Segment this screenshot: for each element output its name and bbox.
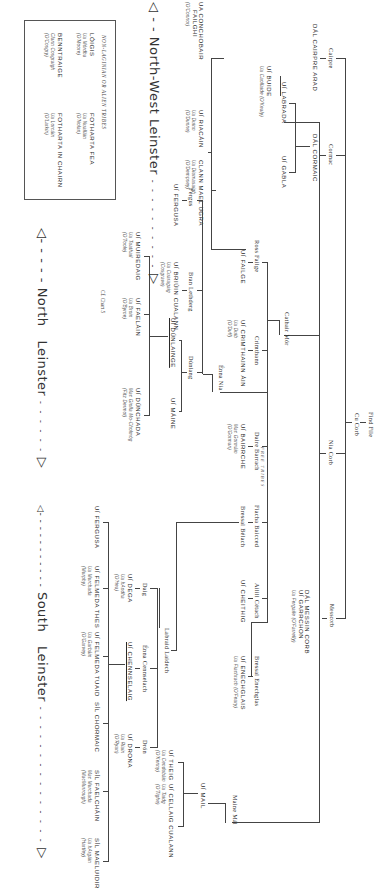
chart-reference: Cf. Chart 5 xyxy=(100,290,106,313)
box-title: NON-LAGINIAN OR ALIEN TRIBES xyxy=(101,35,107,129)
connector xyxy=(203,374,213,375)
node-sil-faelchain: SÍL FAELCHÁIN Mac Murchada (MacMurrough) xyxy=(80,770,100,822)
node-ui-riacain: UÍ RIACÁIN Ua Duinn (O'Dunne) xyxy=(184,110,204,148)
connector xyxy=(103,723,109,724)
connector xyxy=(320,453,326,454)
connector xyxy=(262,262,268,263)
node-sil-maeluidir: SÍL MAELUIDIR Ua hArgáin (Hartley) xyxy=(80,838,100,889)
node-ui-gabla: UÍ GABLA xyxy=(281,156,287,188)
connector xyxy=(208,803,226,804)
connector xyxy=(322,618,327,619)
connector xyxy=(289,172,296,173)
connector xyxy=(232,822,320,823)
connector xyxy=(150,336,168,337)
node-ui-cheithig: UÍ CHEITHIG xyxy=(240,580,246,623)
node-sil-chormaic: SÍL CHORMAIC xyxy=(94,702,100,752)
node-ui-dunlainge: UÍ DÚNLAINGE xyxy=(170,318,176,368)
connector xyxy=(177,522,239,523)
node-ui-labrada: UÍ LABRADA xyxy=(281,82,287,124)
tribe-fotharta-in-chairn: FOTHARTA IN CHAIRN Ua Lorcáin (O'Larkin) xyxy=(43,113,63,188)
connector xyxy=(150,668,158,669)
left-arrow-icon: ◁ - - xyxy=(147,2,162,32)
connector xyxy=(103,791,109,792)
connector xyxy=(182,290,187,291)
node-cathair-mor: Cathair Mór xyxy=(284,312,290,346)
connector xyxy=(336,58,346,59)
node-dal-cormaic: DÁL CORMAIC xyxy=(312,134,318,182)
connector xyxy=(336,453,346,454)
node-ui-drona: UÍ DRONA Ua Riain (O'Ryan) xyxy=(113,734,133,768)
node-crimthann: Crimthann xyxy=(254,336,260,365)
connector xyxy=(144,415,150,416)
node-ua-conchobair-failgi: UA CONCHOBAIR FAILGHI (O'Connor) xyxy=(185,2,204,60)
connector xyxy=(103,861,109,862)
region-south-leinster: ◁- - - - - - - - - - - South Leinster - … xyxy=(35,505,50,859)
connector xyxy=(248,676,253,677)
node-fiacha-baicced: Fiacha Baicced xyxy=(254,505,260,547)
node-ui-fergusa-north: UÍ FERGUSA xyxy=(173,184,179,227)
connector xyxy=(103,656,109,657)
node-ailill-cetach: Ailill Cétach xyxy=(254,583,260,619)
connector xyxy=(150,747,158,748)
connector xyxy=(346,422,352,423)
connector xyxy=(262,522,268,523)
region-north-west-leinster: ◁ - - North-West Leinster - - - - - - - … xyxy=(147,2,162,285)
right-arrow-icon: ▷ xyxy=(35,458,50,469)
node-ross-failge: Ross Failge xyxy=(254,240,260,272)
region-label: North Leinster xyxy=(35,288,50,397)
genealogy-chart: Find File Cu Corb Cairpre DÁL CAIRPRE AR… xyxy=(0,0,384,895)
connector xyxy=(208,152,212,153)
node-ui-muiredaig: UÍ MUIREDAIG Ua Tuathail (O'Toole) xyxy=(121,232,141,281)
node-ui-felmeda-thes: UÍ FELMEDA THES Ua Murchada (Murphy) xyxy=(80,566,100,628)
node-bressal-enechglas: Bressal Enechglas xyxy=(254,656,260,706)
connector xyxy=(336,618,346,619)
connector xyxy=(179,411,182,412)
connector xyxy=(289,103,296,104)
connector xyxy=(220,392,268,393)
region-dashes: - - - - - - - - - - - - - - - xyxy=(36,707,45,844)
node-daire-barrach: Daire Barrach xyxy=(254,432,260,471)
connector xyxy=(184,793,198,794)
connector xyxy=(176,522,177,650)
node-ui-chennselaig: UÍ CHENNSELAIG xyxy=(127,642,133,701)
connector xyxy=(345,58,346,618)
connector xyxy=(295,103,296,173)
node-ui-fergusa-south: UÍ FERGUSA xyxy=(94,506,100,549)
connector xyxy=(197,290,203,291)
connector xyxy=(212,58,224,59)
node-fergus: Fergus xyxy=(188,188,194,207)
connector xyxy=(179,340,182,341)
node-ui-dunchada: UÍ DÚNCHADA Mac Giolla Mo-Cholmóg (Fitz … xyxy=(121,388,141,441)
connector xyxy=(181,340,182,412)
node-ui-theig: UÍ THEIG Ua Cendubáin (O'Kenny) xyxy=(154,750,174,782)
connector xyxy=(211,58,212,250)
connector xyxy=(212,374,213,392)
connector xyxy=(225,803,226,823)
node-labraid-laidech: Labraid Laidech xyxy=(164,628,170,673)
connector xyxy=(212,249,246,250)
node-dal-messin-corb: DÁL MESSIN CORB UÍ GARRCHON Ua Fergaile … xyxy=(291,590,310,654)
connector xyxy=(248,262,253,263)
node-enna-cennselach: Énna Cennselach xyxy=(142,645,148,692)
tribe-fotharta-fea: FOTHARTA FEA Ua Nualláin (O'Nolan) xyxy=(75,113,95,165)
region-label: South Leinster xyxy=(35,592,50,702)
connector xyxy=(171,650,177,651)
node-ui-mail: UÍ MAIL xyxy=(200,783,206,809)
node-ui-bairrche: UÍ BAIRRCHE Mac Gormáin (O'Gorman) xyxy=(226,424,246,469)
connector xyxy=(248,522,253,523)
connector xyxy=(212,190,216,191)
connector xyxy=(103,588,109,589)
region-north-leinster: ◁- - - - - North Leinster - - - - - - ▷ xyxy=(35,228,50,468)
connector xyxy=(150,588,158,589)
connector xyxy=(262,350,268,351)
connector xyxy=(284,122,320,123)
connector xyxy=(183,762,184,827)
connector xyxy=(144,314,150,315)
node-ui-buide: UÍ BUIDE Ua Caollaide (O'Kealy) xyxy=(259,66,272,117)
connector xyxy=(197,200,203,201)
node-ui-dega: UÍ DEGA Ua hAodha (O'Hea) xyxy=(113,574,133,603)
connector xyxy=(296,146,310,147)
node-bressal-belach: Bressal Bélach xyxy=(240,506,246,547)
connector xyxy=(178,826,184,827)
node-daig: Daig xyxy=(142,583,148,596)
